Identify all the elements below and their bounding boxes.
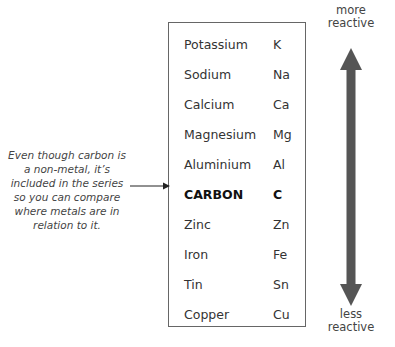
element-symbol: Ca	[273, 95, 289, 115]
series-row-potassium: Potassium K	[169, 35, 305, 55]
element-symbol: Zn	[273, 215, 290, 235]
reactivity-scale-arrow-icon	[338, 48, 364, 306]
element-symbol: C	[273, 185, 282, 205]
element-name: Iron	[184, 245, 208, 265]
series-row-copper: Copper Cu	[169, 305, 305, 325]
less-reactive-label: less reactive	[316, 308, 386, 334]
pointer-arrow-icon	[130, 181, 170, 191]
element-name: Potassium	[184, 35, 248, 55]
element-symbol: K	[273, 35, 281, 55]
more-reactive-line2: reactive	[316, 17, 386, 30]
reactivity-series-table: Potassium K Sodium Na Calcium Ca Magnesi…	[168, 22, 306, 327]
element-name: Zinc	[184, 215, 211, 235]
series-row-magnesium: Magnesium Mg	[169, 125, 305, 145]
more-reactive-label: more reactive	[316, 4, 386, 30]
element-symbol: Al	[273, 155, 285, 175]
element-name: Aluminium	[184, 155, 251, 175]
element-symbol: Sn	[273, 275, 289, 295]
element-symbol: Na	[273, 65, 290, 85]
element-symbol: Mg	[273, 125, 292, 145]
element-name: Copper	[184, 305, 229, 325]
series-row-carbon: CARBON C	[169, 185, 305, 205]
element-name: Magnesium	[184, 125, 256, 145]
element-symbol: Fe	[273, 245, 287, 265]
series-row-tin: Tin Sn	[169, 275, 305, 295]
element-name: Sodium	[184, 65, 231, 85]
series-row-sodium: Sodium Na	[169, 65, 305, 85]
element-symbol: Cu	[273, 305, 290, 325]
series-row-aluminium: Aluminium Al	[169, 155, 305, 175]
element-name: Tin	[184, 275, 203, 295]
series-row-calcium: Calcium Ca	[169, 95, 305, 115]
element-name: Calcium	[184, 95, 234, 115]
less-reactive-line2: reactive	[316, 321, 386, 334]
series-row-iron: Iron Fe	[169, 245, 305, 265]
series-row-zinc: Zinc Zn	[169, 215, 305, 235]
carbon-note: Even though carbon is a non-metal, it’s …	[8, 148, 126, 232]
element-name: CARBON	[184, 185, 243, 205]
